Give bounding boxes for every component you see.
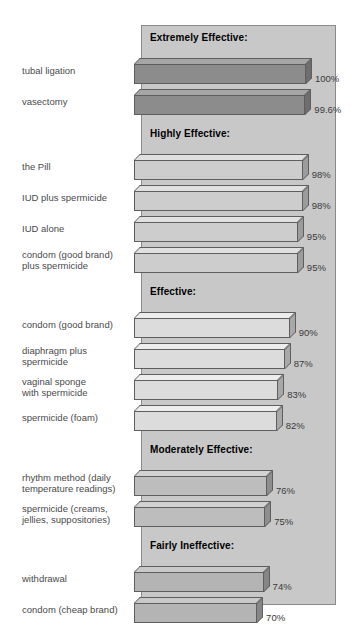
bar-value-label: 75%: [274, 516, 293, 527]
section-header-3: Moderately Effective:: [150, 444, 253, 455]
bar-label: spermicide (foam): [22, 412, 138, 423]
bar-label: spermicide (creams, jellies, suppositori…: [22, 503, 138, 525]
contraceptive-effectiveness-chart: Extremely Effective:tubal ligation100%va…: [0, 0, 351, 632]
bar-value-label: 83%: [287, 389, 306, 400]
bar-front-face: [134, 253, 298, 273]
bar-top-face: [134, 312, 296, 318]
bar: [134, 312, 290, 338]
bar-label: vasectomy: [22, 96, 138, 107]
bar-front-face: [134, 572, 264, 592]
bar: [134, 470, 267, 496]
bar-value-label: 76%: [276, 485, 295, 496]
bar-top-face: [134, 374, 284, 380]
bar-top-face: [134, 216, 304, 222]
bar-side-face: [257, 597, 263, 623]
bar-label: IUD plus spermicide: [22, 192, 138, 203]
bar-front-face: [134, 476, 267, 496]
bar-value-label: 98%: [312, 200, 331, 211]
bar: [134, 216, 298, 242]
bar: [134, 405, 277, 431]
bar-top-face: [134, 58, 312, 64]
bar-value-label: 74%: [273, 581, 292, 592]
bar-label: rhythm method (daily temperature reading…: [22, 472, 138, 494]
bar: [134, 566, 264, 592]
bar-top-face: [134, 405, 283, 411]
bar: [134, 597, 257, 623]
bar-front-face: [134, 603, 257, 623]
bar-value-label: 99.6%: [314, 104, 341, 115]
bar-label: IUD alone: [22, 223, 138, 234]
bar-top-face: [134, 343, 291, 349]
bar-label: vaginal sponge with spermicide: [22, 376, 138, 398]
bar-value-label: 87%: [294, 358, 313, 369]
bar: [134, 247, 298, 273]
bar-top-face: [134, 501, 271, 507]
bar-value-label: 95%: [307, 262, 326, 273]
bar-front-face: [134, 318, 290, 338]
section-header-1: Highly Effective:: [150, 128, 230, 139]
bar-label: the Pill: [22, 161, 138, 172]
bar-value-label: 70%: [266, 612, 285, 623]
bar-front-face: [134, 95, 305, 115]
bar-value-label: 90%: [299, 327, 318, 338]
bar-label: condom (cheap brand): [22, 604, 138, 615]
section-header-0: Extremely Effective:: [150, 32, 248, 43]
section-header-2: Effective:: [150, 286, 196, 297]
bar-front-face: [134, 222, 298, 242]
bar: [134, 89, 305, 115]
bar-value-label: 98%: [312, 169, 331, 180]
bar-label: tubal ligation: [22, 65, 138, 76]
bar-top-face: [134, 185, 309, 191]
bar-front-face: [134, 380, 278, 400]
bar-value-label: 100%: [315, 73, 339, 84]
bar: [134, 58, 306, 84]
bar-label: condom (good brand) plus spermicide: [22, 249, 138, 271]
bar: [134, 154, 303, 180]
bar: [134, 185, 303, 211]
bar: [134, 374, 278, 400]
bar-value-label: 82%: [286, 420, 305, 431]
bar-label: condom (good brand): [22, 319, 138, 330]
bar-label: diaphragm plus spermicide: [22, 345, 138, 367]
section-header-4: Fairly Ineffective:: [150, 540, 234, 551]
bar-front-face: [134, 64, 306, 84]
bar-front-face: [134, 411, 277, 431]
bar: [134, 501, 265, 527]
bar-top-face: [134, 154, 309, 160]
bar-front-face: [134, 507, 265, 527]
bar-label: withdrawal: [22, 573, 138, 584]
bar-top-face: [134, 566, 270, 572]
bar-top-face: [134, 89, 311, 95]
bar-front-face: [134, 160, 303, 180]
bar-top-face: [134, 470, 273, 476]
bar-front-face: [134, 191, 303, 211]
bar-front-face: [134, 349, 285, 369]
bar: [134, 343, 285, 369]
bar-top-face: [134, 247, 304, 253]
bar-top-face: [134, 597, 263, 603]
bar-value-label: 95%: [307, 231, 326, 242]
